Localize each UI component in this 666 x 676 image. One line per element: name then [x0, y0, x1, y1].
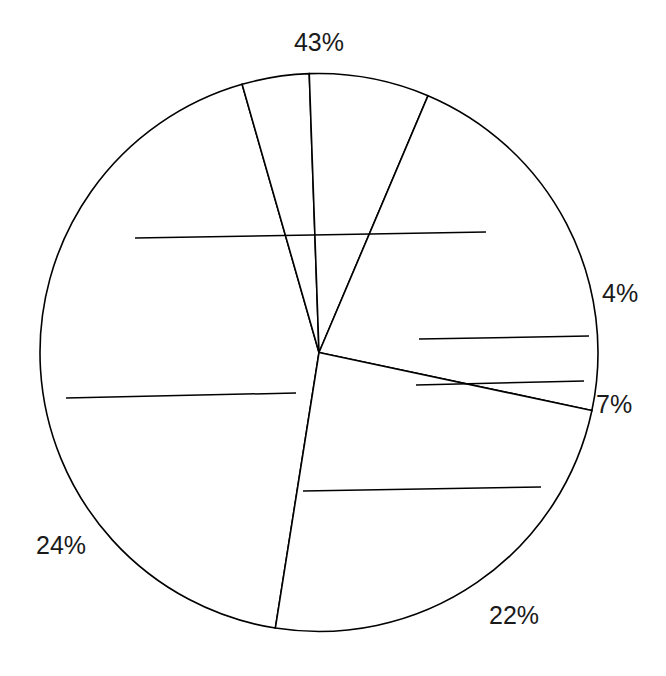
- pie-slice-percent-label: 22%: [489, 601, 539, 629]
- pie-slice-percent-label: 43%: [294, 28, 344, 56]
- pie-chart-figure: 43%4%7%22%24%: [0, 0, 666, 676]
- pie-slice-percent-label: 7%: [596, 390, 632, 418]
- pie-slice-percent-label: 24%: [36, 531, 86, 559]
- pie-slices-group: [40, 74, 598, 632]
- pie-chart-canvas: 43%4%7%22%24%: [0, 0, 666, 676]
- pie-slice-percent-label: 4%: [602, 279, 638, 307]
